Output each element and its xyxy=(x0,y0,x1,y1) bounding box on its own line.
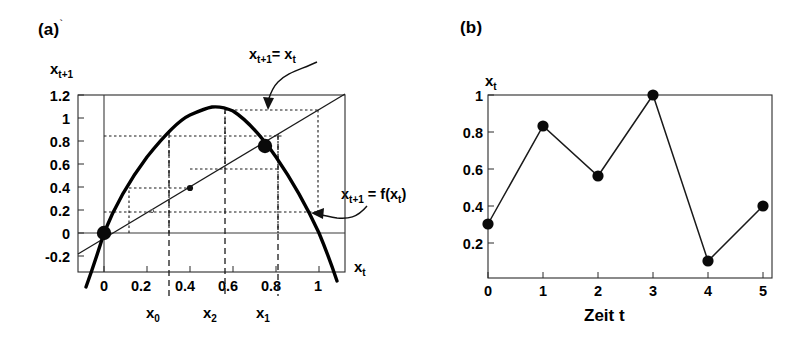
panel-a-cobweb-marker-tiny xyxy=(150,209,153,212)
panel-a-fixed-point-origin xyxy=(97,226,111,240)
panel-a-x-tick-marks xyxy=(104,266,319,272)
panel-b-plot xyxy=(403,0,806,353)
panel-a-plot xyxy=(0,0,403,353)
panel-b-frame xyxy=(488,95,772,278)
panel-a-diagonal-line xyxy=(78,94,345,254)
panel-b-series-markers xyxy=(482,89,768,266)
panel-b-x-tick-marks xyxy=(488,272,763,278)
panel-b-point-t1 xyxy=(537,120,548,131)
panel-a-cobweb-marker-small xyxy=(187,185,193,191)
panel-b-point-t0 xyxy=(482,218,493,229)
panel-b-series-line xyxy=(488,95,763,261)
panel-a-parabola-curve xyxy=(86,107,337,287)
figure-root: (a)` xt+1 xt 1.2 1 0.8 0.6 0.4 0.2 0 -0.… xyxy=(0,0,806,353)
panel-a: (a)` xt+1 xt 1.2 1 0.8 0.6 0.4 0.2 0 -0.… xyxy=(0,0,403,353)
panel-a-fixed-point-nontrivial xyxy=(258,139,272,153)
panel-a-y-tick-marks xyxy=(78,95,84,256)
panel-b-point-t5 xyxy=(757,200,768,211)
panel-a-annotation-diagonal-arrowhead xyxy=(263,97,274,110)
panel-b-point-t2 xyxy=(592,170,603,181)
panel-b-point-t3 xyxy=(647,89,658,100)
panel-b: (b) xt Zeit t 1 0.8 0.6 0.4 0.2 0 1 2 3 … xyxy=(403,0,806,353)
panel-a-frame xyxy=(78,95,345,272)
panel-b-point-t4 xyxy=(702,255,713,266)
